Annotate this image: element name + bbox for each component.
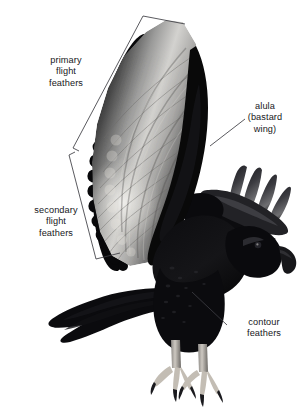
secondary-flight-feathers-label: secondary flight feathers <box>12 205 100 239</box>
label-line: flight <box>12 216 100 227</box>
label-line: feathers <box>12 228 100 239</box>
label-line: alula <box>232 101 298 112</box>
contour-feathers-label: contour feathers <box>228 317 300 340</box>
bird-feather-anatomy-figure: primary flight feathers secondary flight… <box>0 0 307 410</box>
primary-flight-feathers-label: primary flight feathers <box>24 55 108 89</box>
label-line: feathers <box>24 78 108 89</box>
label-line: primary <box>24 55 108 66</box>
label-line: contour <box>228 317 300 328</box>
label-line: secondary <box>12 205 100 216</box>
label-line: (bastard <box>232 112 298 123</box>
label-line: flight <box>24 66 108 77</box>
label-line: wing) <box>232 124 298 135</box>
contour-leader-line <box>192 292 227 325</box>
alula-label: alula (bastard wing) <box>232 101 298 135</box>
label-line: feathers <box>228 328 300 339</box>
